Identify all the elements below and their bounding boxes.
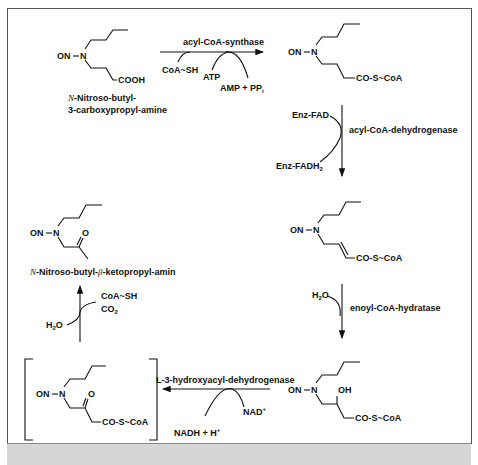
svg-text:CO2: CO2 [101,304,119,315]
svg-text:Enz-FADH2: Enz-FADH2 [276,161,324,172]
svg-text:N: N [313,225,320,235]
compound-4-structure: ON N OH CO-S~CoA [288,362,402,423]
svg-text:acyl-CoA-dehydrogenase: acyl-CoA-dehydrogenase [349,125,458,135]
svg-text:ON: ON [288,385,302,395]
compound-2-structure: ON N CO-S~CoA [288,24,403,83]
step-5-arrow: H2O CoA~SH CO2 [46,286,137,342]
svg-text:N: N [59,389,66,399]
step-2-arrow: Enz-FAD acyl-CoA-dehydrogenase Enz-FADH2 [276,105,458,176]
step-1-arrow: acyl-CoA-synthase CoA~SH ATP AMP + PPi [160,37,264,94]
svg-text:AMP + PPi: AMP + PPi [220,83,264,94]
svg-text:NADH + H+: NADH + H+ [174,427,221,438]
svg-text:ON: ON [290,225,304,235]
svg-text:CO-S~CoA: CO-S~CoA [355,413,402,423]
step-3-arrow: H2O enoyl-CoA-hydratase [312,284,441,338]
svg-text:N: N [311,385,318,395]
svg-text:O: O [88,389,95,399]
svg-text:ON: ON [288,47,302,57]
compound-5-structure: ON N O CO-S~CoA [25,359,157,440]
svg-text:N: N [80,51,87,61]
svg-text:ON: ON [57,51,71,61]
svg-text:ON: ON [30,228,44,238]
svg-text:COOH: COOH [118,75,145,85]
svg-text:CoA~SH: CoA~SH [101,291,137,301]
svg-text:NAD+: NAD+ [243,406,267,417]
step-4-arrow: L-3-hydroxyacyl-dehydrogenase NAD+ NADH … [156,375,295,438]
svg-text:H2O: H2O [312,290,329,301]
svg-text:L-3-hydroxyacyl-dehydrogenase: L-3-hydroxyacyl-dehydrogenase [156,375,295,385]
svg-text:ATP: ATP [203,72,220,82]
compound-3-structure: ON N CO-S~CoA [290,202,403,263]
svg-text:enoyl-CoA-hydratase: enoyl-CoA-hydratase [350,303,441,313]
svg-text:ON: ON [36,389,50,399]
svg-text:Enz-FAD: Enz-FAD [292,110,329,120]
svg-text:N: N [311,47,318,57]
svg-text:N: N [53,228,60,238]
svg-text:N-Nitroso-butyl-: N-Nitroso-butyl- [67,93,136,103]
svg-text:H2O: H2O [46,320,63,331]
svg-text:acyl-CoA-synthase: acyl-CoA-synthase [183,37,264,47]
svg-text:CO-S~CoA: CO-S~CoA [356,253,403,263]
svg-text:3-carboxypropyl-amine: 3-carboxypropyl-amine [68,105,167,115]
compound-1-structure: ON N COOH N-Nitroso-butyl- 3-carboxyprop… [57,30,167,115]
svg-text:OH: OH [338,385,352,395]
svg-text:O: O [82,228,89,238]
svg-text:CO-S~CoA: CO-S~CoA [102,417,149,427]
svg-text:CO-S~CoA: CO-S~CoA [356,73,403,83]
svg-text:CoA~SH: CoA~SH [162,65,198,75]
svg-text:N-Nitroso-butyl-β-ketopropyl-a: N-Nitroso-butyl-β-ketopropyl-amin [29,267,176,277]
compound-6-structure: ON N O N-Nitroso-butyl-β-ketopropyl-amin [29,205,176,277]
